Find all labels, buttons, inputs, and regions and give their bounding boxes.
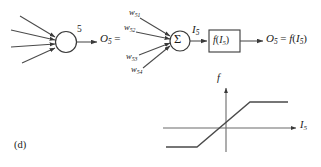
weight-51-sub: 51 <box>135 12 141 18</box>
summation-output-sub: 5 <box>196 28 200 37</box>
final-output-close: ) <box>303 32 307 44</box>
weight-52-sub: 52 <box>130 27 136 33</box>
neuron-input-lines <box>11 16 55 63</box>
weight-label-54: w54 <box>131 65 142 75</box>
figure-panel-d: 5 O5 = w51 w52 w53 w54 Σ I5 f(I5) O5 = f… <box>0 0 321 167</box>
final-output-base: O <box>266 32 274 44</box>
plot-x-axis-sub: 5 <box>304 124 307 132</box>
figure-vector-graphics <box>0 0 321 167</box>
neuron-output-base: O <box>100 32 108 44</box>
weight-input-lines <box>136 18 170 68</box>
final-output-eq: = <box>278 32 290 44</box>
activation-box-close: ) <box>226 34 229 45</box>
weight-53-sub: 53 <box>132 56 138 62</box>
panel-label: (d) <box>14 140 26 151</box>
weight-label-53: w53 <box>126 52 137 62</box>
plot-x-axis-label: I5 <box>300 120 307 132</box>
final-output-label: O5 = f(I5) <box>266 33 307 46</box>
weight-label-52: w52 <box>124 23 135 33</box>
weight-54-sub: 54 <box>137 69 143 75</box>
plot-y-axis-label: f <box>217 73 220 84</box>
summation-sigma-symbol: Σ <box>174 33 181 46</box>
neuron-index-label: 5 <box>77 25 82 35</box>
plot-activation-curve <box>166 102 288 147</box>
weight-label-51: w51 <box>129 8 140 18</box>
neuron-body-circle <box>56 32 77 53</box>
summation-output-label: I5 <box>192 24 199 37</box>
neuron-output-eq: = <box>112 32 121 44</box>
activation-box-label: f(I5) <box>213 35 229 47</box>
neuron-output-label: O5 = <box>100 33 121 46</box>
